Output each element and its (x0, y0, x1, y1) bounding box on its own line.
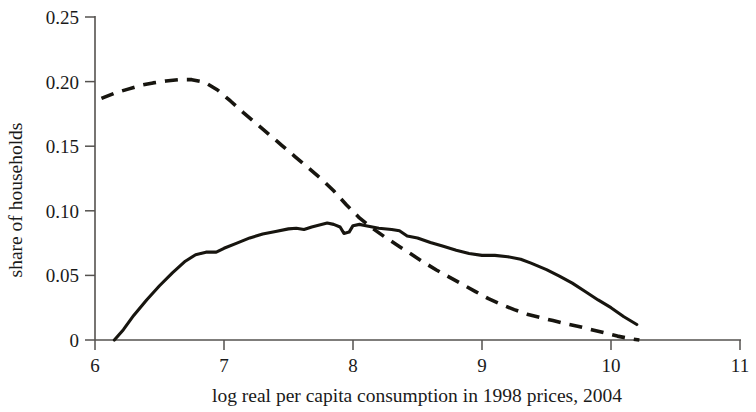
y-tick-label: 0.25 (46, 7, 79, 28)
y-tick-label: 0 (70, 330, 80, 351)
data-series (101, 80, 639, 340)
distribution-line-chart: 6789101100.050.100.150.200.25 log real p… (0, 0, 756, 412)
x-tick-label: 11 (731, 355, 749, 376)
y-tick-label: 0.15 (46, 136, 79, 157)
y-axis-title: share of households (5, 123, 26, 278)
y-tick-label: 0.05 (46, 265, 79, 286)
tick-labels: 6789101100.050.100.150.200.25 (46, 7, 749, 376)
y-tick-label: 0.20 (46, 72, 79, 93)
x-tick-label: 8 (348, 355, 358, 376)
y-tick-label: 0.10 (46, 201, 79, 222)
series-dashed-distribution (101, 80, 639, 340)
tick-marks (85, 17, 740, 350)
x-axis-title: log real per capita consumption in 1998 … (212, 385, 622, 406)
x-tick-label: 7 (219, 355, 229, 376)
x-tick-label: 9 (477, 355, 487, 376)
chart-figure: 6789101100.050.100.150.200.25 log real p… (0, 0, 756, 412)
x-tick-label: 10 (602, 355, 621, 376)
x-tick-label: 6 (90, 355, 100, 376)
axes (95, 16, 741, 340)
